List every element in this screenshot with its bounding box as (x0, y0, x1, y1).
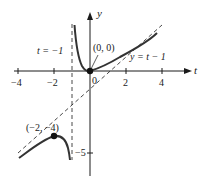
point-minimum-label: (−2, −4) (26, 122, 59, 134)
tick-label-y-neg5: −5 (75, 147, 86, 158)
point-minimum (51, 133, 57, 139)
x-axis-label: t (194, 64, 198, 76)
curve-left-branch (19, 136, 70, 160)
tick-label-2: 2 (123, 77, 128, 88)
slant-asymptote-label: y = t − 1 (129, 51, 166, 62)
tick-label-0: 0 (92, 75, 97, 86)
tick-label-4: 4 (159, 77, 164, 88)
point-origin-leader (91, 55, 98, 69)
tick-label-neg2: −2 (47, 77, 58, 88)
y-axis-label: y (96, 7, 102, 19)
vertical-asymptote-label: t = −1 (37, 45, 63, 56)
y-axis-arrow-icon (87, 12, 93, 20)
function-graph: −4 −2 0 2 4 −5 t y t = −1 (0, 0) y = t −… (0, 0, 207, 176)
x-axis-arrow-icon (184, 68, 192, 74)
curve-right-branch (75, 25, 158, 71)
tick-label-neg4: −4 (11, 77, 22, 88)
point-origin (87, 68, 93, 74)
point-origin-label: (0, 0) (93, 42, 115, 54)
